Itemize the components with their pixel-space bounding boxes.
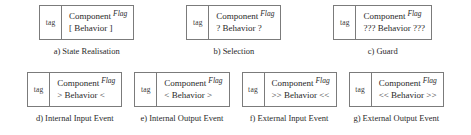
component-line: Component Flag	[272, 78, 330, 89]
tag-compartment: tag	[28, 73, 50, 106]
flag-superscript-label: Flag	[113, 10, 127, 18]
component-label: Component	[272, 78, 314, 89]
flag-superscript-label: Flag	[208, 77, 222, 85]
tag-compartment: tag	[334, 6, 356, 39]
body-compartment: Component Flag < Behavior >	[157, 73, 228, 106]
tag-label: tag	[141, 86, 151, 94]
component-box: tag Component Flag < Behavior >	[134, 72, 229, 107]
behavior-label: ??? Behavior ???	[363, 23, 424, 34]
figure-row-top: tag Component Flag [ Behavior ] a) State…	[0, 5, 471, 56]
component-label: Component	[69, 11, 111, 22]
component-line: Component Flag	[57, 78, 115, 89]
flag-superscript-label: Flag	[407, 10, 421, 18]
flag-superscript-label: Flag	[316, 77, 330, 85]
notation-cell-external-input-event: tag Component Flag >> Behavior << f) Ext…	[242, 72, 337, 123]
tag-label: tag	[340, 19, 350, 27]
component-box: tag Component Flag > Behavior <	[27, 72, 122, 107]
component-line: Component Flag	[164, 78, 222, 89]
component-line: Component Flag	[363, 11, 424, 22]
tag-compartment: tag	[135, 73, 157, 106]
figure-caption: f) External Input Event	[250, 113, 329, 123]
component-line: Component Flag	[379, 78, 437, 89]
component-label: Component	[57, 78, 99, 89]
component-box: tag Component Flag ? Behavior ?	[186, 5, 281, 40]
notation-cell-internal-input-event: tag Component Flag > Behavior < d) Inter…	[27, 72, 122, 123]
behavior-label: [ Behavior ]	[69, 23, 127, 34]
body-compartment: Component Flag ? Behavior ?	[209, 6, 280, 39]
component-label: Component	[164, 78, 206, 89]
body-compartment: Component Flag ??? Behavior ???	[356, 6, 430, 39]
component-box: tag Component Flag ??? Behavior ???	[333, 5, 431, 40]
component-label: Component	[379, 78, 421, 89]
behavior-label: >> Behavior <<	[272, 90, 330, 101]
component-line: Component Flag	[216, 11, 274, 22]
component-label: Component	[216, 11, 258, 22]
tag-compartment: tag	[350, 73, 372, 106]
behavior-label: > Behavior <	[57, 90, 115, 101]
component-notation-figure: tag Component Flag [ Behavior ] a) State…	[0, 0, 471, 135]
figure-row-bottom: tag Component Flag > Behavior < d) Inter…	[0, 72, 471, 123]
figure-caption: g) External Output Event	[353, 113, 439, 123]
flag-superscript-label: Flag	[423, 77, 437, 85]
body-compartment: Component Flag >> Behavior <<	[265, 73, 336, 106]
figure-caption: e) Internal Output Event	[140, 113, 223, 123]
tag-compartment: tag	[40, 6, 62, 39]
component-box: tag Component Flag << Behavior >>	[349, 72, 444, 107]
tag-label: tag	[46, 19, 56, 27]
notation-cell-state-realisation: tag Component Flag [ Behavior ] a) State…	[39, 5, 134, 56]
body-compartment: Component Flag << Behavior >>	[372, 73, 443, 106]
tag-label: tag	[193, 19, 203, 27]
notation-cell-guard: tag Component Flag ??? Behavior ??? c) G…	[333, 5, 431, 56]
tag-compartment: tag	[187, 6, 209, 39]
figure-caption: a) State Realisation	[54, 46, 120, 56]
behavior-label: < Behavior >	[164, 90, 222, 101]
notation-cell-external-output-event: tag Component Flag << Behavior >> g) Ext…	[349, 72, 444, 123]
component-box: tag Component Flag >> Behavior <<	[242, 72, 337, 107]
body-compartment: Component Flag [ Behavior ]	[62, 6, 133, 39]
tag-label: tag	[355, 86, 365, 94]
flag-superscript-label: Flag	[260, 10, 274, 18]
component-line: Component Flag	[69, 11, 127, 22]
notation-cell-internal-output-event: tag Component Flag < Behavior > e) Inter…	[134, 72, 229, 123]
tag-compartment: tag	[243, 73, 265, 106]
body-compartment: Component Flag > Behavior <	[50, 73, 121, 106]
notation-cell-selection: tag Component Flag ? Behavior ? b) Selec…	[186, 5, 281, 56]
figure-caption: b) Selection	[213, 46, 254, 56]
behavior-label: ? Behavior ?	[216, 23, 274, 34]
component-label: Component	[363, 11, 405, 22]
behavior-label: << Behavior >>	[379, 90, 437, 101]
figure-caption: d) Internal Input Event	[36, 113, 114, 123]
tag-label: tag	[248, 86, 258, 94]
figure-caption: c) Guard	[368, 46, 398, 56]
component-box: tag Component Flag [ Behavior ]	[39, 5, 134, 40]
flag-superscript-label: Flag	[101, 77, 115, 85]
tag-label: tag	[34, 86, 44, 94]
